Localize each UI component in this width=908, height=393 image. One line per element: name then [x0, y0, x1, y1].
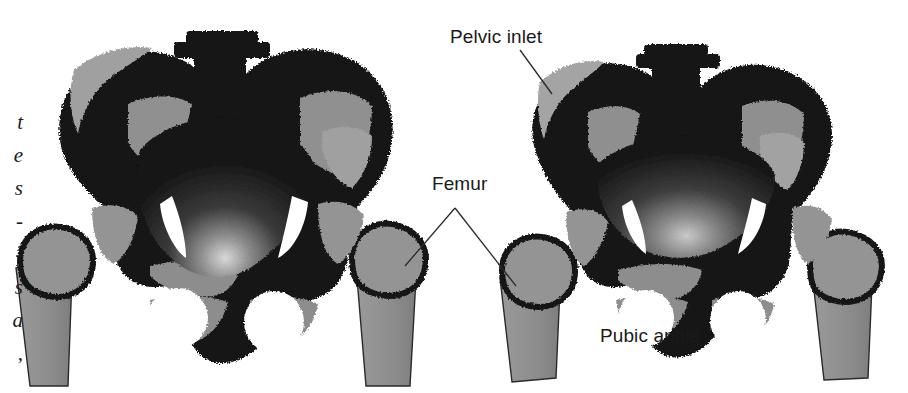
female-left-transverse-process: [174, 42, 204, 58]
figure-root: Pelvic inlet Femur Pubic angle t e s - -…: [0, 0, 908, 393]
label-femur: Femur: [432, 173, 487, 195]
male-left-femoral-head: [502, 237, 575, 307]
label-pelvic-inlet: Pelvic inlet: [450, 26, 542, 48]
male-right-transverse-process: [694, 54, 720, 68]
female-right-femoral-head: [352, 224, 426, 296]
pelvis-comparison-illustration: [0, 0, 908, 393]
male-vertebral-arch: [644, 44, 708, 56]
female-vertebral-arch: [186, 31, 258, 44]
female-left-obturator-foramen: [148, 288, 208, 348]
female-right-obturator-foramen: [244, 291, 304, 353]
label-pubic-angle: Pubic angle: [600, 325, 700, 347]
female-left-femoral-head: [20, 227, 93, 297]
male-right-obturator-foramen: [710, 291, 766, 349]
female-right-transverse-process: [238, 42, 270, 58]
male-left-transverse-process: [636, 54, 660, 68]
